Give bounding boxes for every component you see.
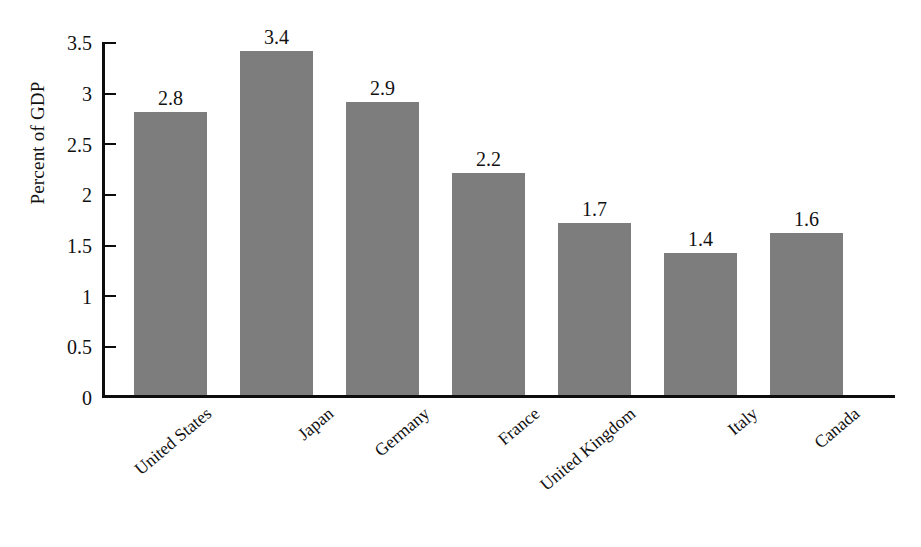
x-tick-label-united-states: United States: [80, 404, 215, 521]
y-tick-label: 0: [46, 388, 92, 408]
bar-value-label: 3.4: [240, 27, 313, 47]
bar-chart: Percent of GDP 3.5 3 2.5 2 1.5 1 0.5 0 2…: [0, 0, 921, 547]
y-tick-label: 1.5: [46, 236, 92, 256]
y-axis-tick-labels: 3.5 3 2.5 2 1.5 1 0.5 0: [46, 0, 92, 547]
bar-value-label: 2.2: [452, 149, 525, 169]
bar-united-states[interactable]: 2.8: [134, 42, 207, 395]
bar-value-label: 1.7: [558, 199, 631, 219]
x-axis-line: [102, 395, 895, 398]
bar-france[interactable]: 2.2: [452, 42, 525, 395]
plot-area: 2.8 3.4 2.9 2.2 1.7 1.4 1.6: [105, 42, 895, 395]
bar-rect[interactable]: [664, 253, 737, 395]
bar-value-label: 1.4: [664, 229, 737, 249]
y-tick-label: 3.5: [46, 33, 92, 53]
bar-value-label: 2.9: [346, 78, 419, 98]
bar-japan[interactable]: 3.4: [240, 42, 313, 395]
bar-rect[interactable]: [770, 233, 843, 395]
bar-rect[interactable]: [134, 112, 207, 395]
bar-value-label: 2.8: [134, 88, 207, 108]
bar-rect[interactable]: [240, 51, 313, 395]
y-tick-label: 2.5: [46, 135, 92, 155]
bar-rect[interactable]: [346, 102, 419, 395]
bar-united-kingdom[interactable]: 1.7: [558, 42, 631, 395]
bar-italy[interactable]: 1.4: [664, 42, 737, 395]
y-tick-label: 3: [46, 84, 92, 104]
y-tick-label: 2: [46, 185, 92, 205]
bar-value-label: 1.6: [770, 209, 843, 229]
bar-canada[interactable]: 1.6: [770, 42, 843, 395]
y-tick-label: 1: [46, 287, 92, 307]
bar-rect[interactable]: [452, 173, 525, 395]
bar-germany[interactable]: 2.9: [346, 42, 419, 395]
x-axis-tick-labels: United States Japan Germany France Unite…: [105, 400, 895, 547]
bar-rect[interactable]: [558, 223, 631, 395]
y-tick-label: 0.5: [46, 337, 92, 357]
